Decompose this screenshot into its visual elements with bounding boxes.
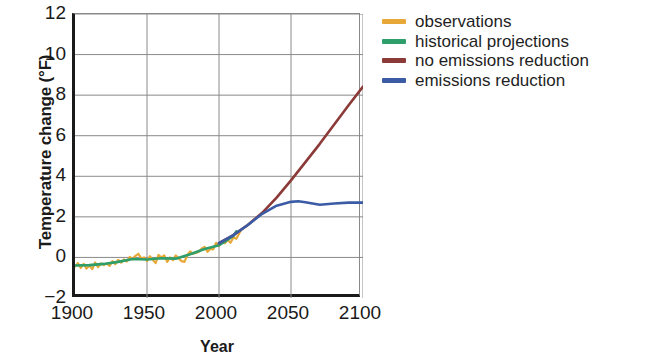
legend: observationshistorical projectionsno emi… [382,12,632,90]
legend-item: observations [382,12,632,32]
x-tick-label: 2050 [267,303,309,322]
legend-swatch-icon [382,58,406,63]
x-tick-label: 2100 [339,303,381,322]
y-tick-label: 8 [18,84,66,103]
y-tick-label: 12 [18,3,66,22]
plot-area [72,13,360,297]
y-tick-label: 0 [18,246,66,265]
legend-label: emissions reduction [415,71,565,90]
plot-svg [75,14,363,298]
x-axis-tick-labels: 19001950200020502100 [0,303,645,333]
x-tick-label: 1950 [123,303,165,322]
y-tick-label: 4 [18,165,66,184]
legend-item: no emissions reduction [382,51,632,71]
legend-item: emissions reduction [382,71,632,91]
x-tick-label: 1900 [51,303,93,322]
y-tick-label: 10 [18,44,66,63]
legend-label: observations [415,12,511,31]
x-axis-label: Year [72,338,362,356]
legend-label: historical projections [415,32,569,51]
legend-swatch-icon [382,19,406,24]
chart-figure: Temperature change (°F) Year −2024681012… [0,0,645,364]
y-tick-label: 2 [18,206,66,225]
legend-swatch-icon [382,39,406,44]
legend-swatch-icon [382,78,406,83]
legend-label: no emissions reduction [415,51,589,70]
x-tick-label: 2000 [195,303,237,322]
y-tick-label: 6 [18,125,66,144]
legend-item: historical projections [382,32,632,52]
